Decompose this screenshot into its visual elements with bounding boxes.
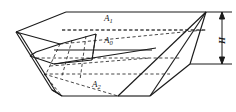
label-area-a1: A1: [104, 14, 113, 23]
frustum-diagram-svg: [0, 0, 236, 112]
dimension-arrow-top: [219, 12, 224, 19]
label-a1-base: A: [104, 13, 110, 23]
hidden-edge-diagonal-upper: [60, 30, 204, 44]
label-a0-subscript: 0: [110, 39, 113, 46]
label-area-a2: A2: [92, 80, 101, 89]
label-area-a0: A0: [104, 36, 113, 45]
label-a1-subscript: 1: [110, 17, 113, 24]
label-a0-base: A: [104, 35, 110, 45]
edge-right-wall-lower: [150, 64, 190, 96]
label-height-h: H: [218, 37, 227, 44]
visible-edges-group: [16, 12, 206, 96]
edge-notch-inner-vertical: [92, 34, 96, 60]
edge-top-left-rim: [16, 12, 66, 32]
hidden-edge-floor-diagonal: [44, 74, 118, 96]
label-a2-base: A: [92, 79, 98, 89]
label-a2-subscript: 2: [98, 83, 101, 90]
figure-container: A1 A0 A2 H: [0, 0, 236, 112]
dimension-arrow-bottom: [219, 57, 224, 64]
edge-interior-fold-right: [150, 12, 206, 96]
